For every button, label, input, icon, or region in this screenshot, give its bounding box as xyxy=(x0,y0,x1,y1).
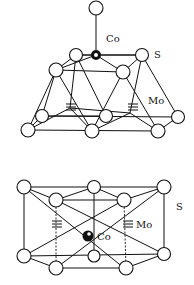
upper-s-atom xyxy=(49,193,63,207)
upper-s-atom xyxy=(157,180,171,194)
top-s-atom xyxy=(136,49,149,62)
bottom-co-label: Co xyxy=(97,231,111,242)
bottom-s-label: S xyxy=(176,201,183,212)
top-co-label: Co xyxy=(106,33,120,44)
upper-s-atom xyxy=(117,193,131,207)
bottom-structure: Co S Mo xyxy=(17,180,183,275)
top-s-atom xyxy=(116,65,130,79)
bottom-s-atom xyxy=(151,124,165,138)
lower-s-atom xyxy=(88,250,100,262)
top-s-atom xyxy=(70,49,83,62)
bottom-co-atom xyxy=(83,231,94,242)
lower-s-atom xyxy=(119,261,133,275)
bottom-s-atom xyxy=(100,110,113,123)
lower-s-atom xyxy=(158,248,171,261)
bottom-mo-atom xyxy=(52,221,62,227)
lower-s-atom xyxy=(49,261,63,275)
top-co-apical-s-atom xyxy=(89,1,103,15)
lower-s-atom xyxy=(17,249,31,263)
bottom-s-atom xyxy=(85,124,99,138)
bottom-s-atom xyxy=(36,110,49,123)
top-s-label: S xyxy=(154,49,161,60)
upper-s-atom xyxy=(88,181,101,194)
top-mo-label: Mo xyxy=(148,95,164,106)
top-s-atom xyxy=(49,63,63,77)
bottom-s-atom xyxy=(172,111,185,124)
diagram-canvas: Co S Mo xyxy=(0,0,194,285)
bottom-s-atom xyxy=(21,123,35,137)
top-mo-atom xyxy=(128,104,138,110)
bottom-mo-label: Mo xyxy=(136,219,152,230)
top-structure: Co S Mo xyxy=(21,1,185,138)
upper-s-atom xyxy=(17,180,31,194)
